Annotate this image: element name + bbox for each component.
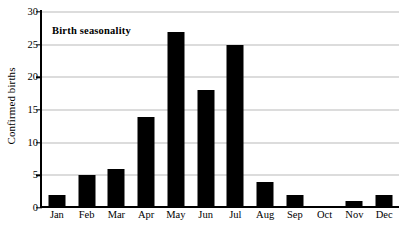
x-axis-tick-label: Aug <box>256 210 274 221</box>
bar-slot <box>221 12 251 208</box>
plot-area <box>40 12 399 208</box>
bars-layer <box>42 12 399 208</box>
bar[interactable] <box>138 117 155 208</box>
x-axis-tick-labels: JanFebMarAprMayJunJulAugSepOctNovDec <box>42 210 399 230</box>
bar-slot <box>72 12 102 208</box>
bar-slot <box>102 12 132 208</box>
x-axis-tick-label: Jul <box>229 210 241 221</box>
bar[interactable] <box>227 45 244 208</box>
x-axis-tick-label: Dec <box>376 210 393 221</box>
bar[interactable] <box>197 90 214 208</box>
x-axis-tick-label: May <box>166 210 185 221</box>
chart-title: Birth seasonality <box>52 25 131 36</box>
bar-slot <box>131 12 161 208</box>
x-axis-tick-label: Apr <box>138 210 154 221</box>
bar-slot <box>42 12 72 208</box>
birth-seasonality-bar-chart: Confirmed births 051015202530 Birth seas… <box>0 0 403 236</box>
x-axis-tick-label: Jan <box>50 210 64 221</box>
x-axis-tick-label: Sep <box>287 210 303 221</box>
bar-slot <box>191 12 221 208</box>
x-axis-tick-label: Nov <box>345 210 363 221</box>
bar-slot <box>280 12 310 208</box>
x-axis-line <box>40 206 399 208</box>
x-axis-tick-label: Mar <box>108 210 126 221</box>
bar-slot <box>310 12 340 208</box>
bar-slot <box>250 12 280 208</box>
bar-slot <box>369 12 399 208</box>
x-axis-tick-label: Feb <box>79 210 95 221</box>
bar-slot <box>161 12 191 208</box>
x-axis-tick-label: Oct <box>317 210 332 221</box>
y-axis-title: Confirmed births <box>0 0 22 212</box>
y-axis-title-text: Confirmed births <box>5 67 17 144</box>
x-axis-tick-label: Jun <box>198 210 213 221</box>
bar[interactable] <box>257 182 274 208</box>
bar[interactable] <box>167 32 184 208</box>
bar-slot <box>340 12 370 208</box>
bar[interactable] <box>78 175 95 208</box>
bar[interactable] <box>108 169 125 208</box>
